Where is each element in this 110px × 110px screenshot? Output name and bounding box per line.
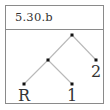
binary-tree: 2 R 1 [0,0,110,110]
edge-root-left [48,35,72,60]
label-1: 1 [67,86,77,105]
node-left [47,59,50,62]
tree-edges [24,35,96,84]
tree-nodes [23,34,98,86]
label-2: 2 [91,62,101,81]
node-root [71,34,74,37]
edge-root-right [72,35,96,60]
edge-left-1 [48,60,72,84]
label-r: R [18,86,31,105]
edge-left-r [24,60,48,84]
